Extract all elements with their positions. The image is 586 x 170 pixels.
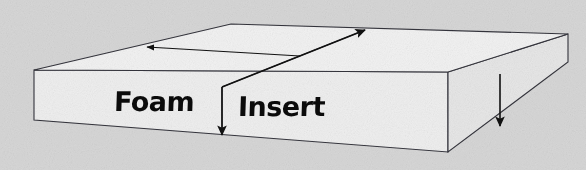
foam-insert-illustration [0,0,586,170]
label-foam: Foam [114,88,195,115]
figure-canvas: Foam Insert [0,0,586,170]
label-insert: Insert [238,93,326,120]
